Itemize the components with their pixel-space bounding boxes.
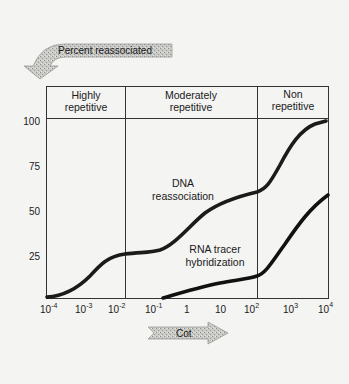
- rna-hybridization-curve: [163, 195, 328, 298]
- x-tick-1e3: 103: [283, 302, 298, 315]
- x-tick-1: 1: [184, 304, 190, 315]
- svg-text:RNA tracer: RNA tracer: [189, 243, 241, 255]
- svg-text:DNA: DNA: [172, 177, 194, 189]
- x-tick-1e-3: 10-3: [75, 302, 92, 315]
- x-tick-1e-1: 10-1: [145, 302, 162, 315]
- x-tick-10: 10: [215, 304, 227, 315]
- cot-curve-figure: Percent reassociated Highly repetitive M…: [0, 0, 349, 384]
- region-non-label-1: Non: [283, 88, 302, 100]
- y-tick-100: 100: [23, 116, 40, 127]
- y-axis-arrow-label: Percent reassociated: [58, 45, 152, 56]
- cot-arrow: Cot: [148, 322, 228, 344]
- y-tick-75: 75: [29, 161, 41, 172]
- svg-text:reassociation: reassociation: [152, 190, 214, 202]
- region-non-label-2: repetitive: [272, 100, 315, 112]
- rna-curve-label: RNA tracer hybridization: [186, 243, 245, 268]
- x-tick-1e-2: 10-2: [108, 302, 125, 315]
- region-headers: Highly repetitive Moderately repetitive …: [65, 88, 315, 113]
- x-tick-1e4: 104: [318, 301, 333, 315]
- x-axis-ticks: 10-4 10-3 10-2 10-1 1 10 102 103 104: [40, 301, 333, 315]
- region-moderately-label-1: Moderately: [165, 89, 218, 101]
- region-highly-label-2: repetitive: [65, 101, 108, 113]
- x-tick-1e-4: 10-4: [40, 302, 57, 315]
- percent-reassociated-arrow: Percent reassociated: [24, 44, 172, 79]
- x-tick-1e2: 102: [244, 302, 259, 315]
- y-axis-ticks: 100 75 50 25: [23, 116, 40, 262]
- x-axis-arrow-label: Cot: [176, 328, 192, 339]
- dna-reassociation-curve: [47, 121, 326, 297]
- region-highly-label-1: Highly: [71, 89, 101, 101]
- svg-text:hybridization: hybridization: [186, 256, 245, 268]
- y-tick-25: 25: [29, 251, 41, 262]
- dna-curve-label: DNA reassociation: [152, 177, 214, 202]
- y-tick-50: 50: [29, 206, 41, 217]
- region-moderately-label-2: repetitive: [170, 101, 213, 113]
